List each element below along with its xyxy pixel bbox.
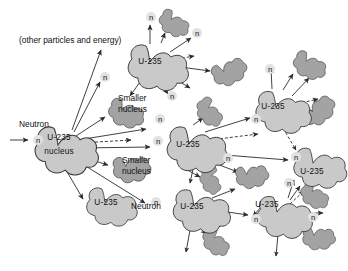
neutron-glyph: n: [158, 115, 162, 124]
neutron-glyph: n: [195, 29, 199, 38]
neutron-glyph: n: [36, 136, 40, 145]
label-u235-top: U-235: [138, 57, 162, 66]
neutron-marker: n: [223, 153, 233, 163]
neutron-marker: n: [33, 135, 43, 145]
label-u235-lowerright: U-235: [255, 200, 279, 209]
neutron-marker: n: [153, 136, 163, 146]
neutron-glyph: n: [311, 213, 315, 222]
label-neutron-mid: Neutron: [131, 201, 161, 211]
neutron-glyph: n: [170, 92, 174, 101]
neutron-glyph: n: [149, 13, 153, 22]
neutron-marker: n: [251, 214, 261, 224]
neutron-glyph: n: [294, 153, 298, 162]
label-u235-main: U-235: [47, 133, 71, 142]
label-u235-upperright: U-235: [261, 102, 285, 111]
neutron-marker: n: [146, 12, 156, 22]
label-other-particles-and-energy: (other particles and energy): [19, 35, 122, 45]
neutron-glyph: n: [103, 73, 107, 82]
neutron-marker: n: [155, 114, 165, 124]
neutron-glyph: n: [226, 154, 230, 163]
label-u235-center: U-235: [176, 140, 200, 149]
label-smaller-nucleus-upper-line2: nucleus: [118, 104, 147, 114]
label-u235-lowercenter: U-235: [180, 202, 204, 211]
neutron-marker: n: [192, 28, 202, 38]
label-u235-bottomleft: U-235: [94, 198, 118, 207]
neutron-glyph: n: [254, 215, 258, 224]
neutron-marker: n: [251, 114, 261, 124]
neutron-marker: n: [265, 64, 275, 74]
fission-chain-reaction-figure: n n n n n n n n n n n n n n n U-235 nucl…: [0, 0, 348, 271]
neutron-marker: n: [291, 152, 301, 162]
neutron-marker: n: [167, 91, 177, 101]
neutron-marker: n: [308, 212, 318, 222]
diagram-canvas: n n n n n n n n n n n n n n n U-235 nucl…: [0, 0, 348, 271]
label-smaller-nucleus-lower-line1: Smaller: [122, 155, 151, 165]
label-smaller-nucleus-lower-line2: nucleus: [122, 166, 151, 176]
neutron-glyph: n: [268, 65, 272, 74]
neutron-glyph: n: [287, 179, 291, 188]
neutron-glyph: n: [254, 115, 258, 124]
label-neutron-left: Neutron: [19, 119, 49, 129]
label-smaller-nucleus-upper-line1: Smaller: [118, 93, 147, 103]
neutron-marker: n: [100, 72, 110, 82]
neutron-marker: n: [284, 178, 294, 188]
label-nucleus-main: nucleus: [44, 147, 74, 156]
label-u235-right: U-235: [300, 167, 324, 176]
neutron-glyph: n: [156, 137, 160, 146]
